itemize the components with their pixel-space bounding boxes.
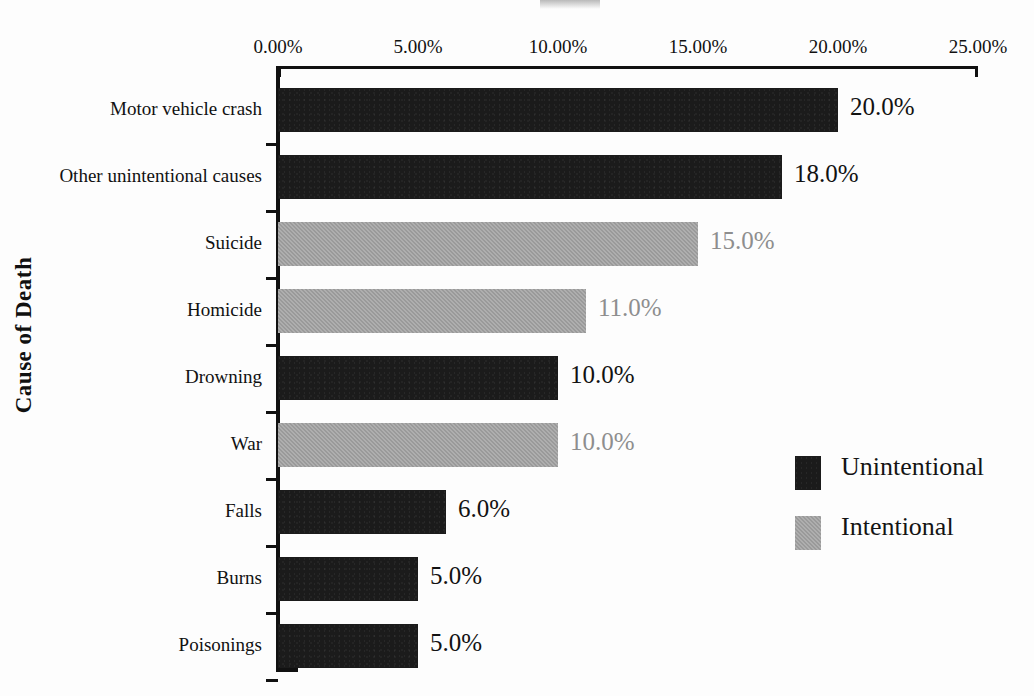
cropped-title-artifact [540, 0, 600, 9]
x-tick-label: 5.00% [393, 36, 442, 58]
bar [278, 155, 782, 199]
x-axis-end-cap [975, 66, 978, 77]
category-label: War [0, 433, 276, 455]
value-label: 10.0% [570, 428, 635, 456]
value-label: 5.0% [430, 562, 482, 590]
bar [278, 557, 418, 601]
legend-swatch [795, 456, 821, 490]
bar-chart: Cause of Death 0.00%5.00%10.00%15.00%20.… [0, 0, 1034, 696]
bar [278, 222, 698, 266]
x-tick-label: 10.00% [529, 36, 588, 58]
x-tick-label: 0.00% [253, 36, 302, 58]
x-tick-label: 25.00% [949, 36, 1008, 58]
category-label: Other unintentional causes [0, 165, 276, 187]
y-tick-mark [266, 478, 278, 481]
value-label: 15.0% [710, 227, 775, 255]
bar [278, 88, 838, 132]
value-label: 20.0% [850, 93, 915, 121]
y-tick-mark [266, 545, 278, 548]
category-label: Motor vehicle crash [0, 98, 276, 120]
y-axis-title: Cause of Death [9, 225, 39, 445]
category-label: Homicide [0, 299, 276, 321]
y-tick-mark [266, 612, 278, 615]
bar [278, 356, 558, 400]
category-label: Falls [0, 500, 276, 522]
bar [278, 289, 586, 333]
value-label: 11.0% [598, 294, 662, 322]
bar [278, 490, 446, 534]
x-tick-label: 20.00% [809, 36, 868, 58]
y-tick-mark [266, 411, 278, 414]
y-tick-mark [266, 210, 278, 213]
value-label: 10.0% [570, 361, 635, 389]
x-axis-line [278, 66, 978, 69]
category-label: Poisonings [0, 634, 276, 656]
value-label: 18.0% [794, 160, 859, 188]
x-tick-label: 15.00% [669, 36, 728, 58]
legend-swatch [795, 516, 821, 550]
y-tick-mark [266, 143, 278, 146]
legend-label: Unintentional [841, 452, 984, 482]
y-axis-foot [276, 668, 298, 672]
category-label: Suicide [0, 232, 276, 254]
bar [278, 423, 558, 467]
legend-label: Intentional [841, 512, 954, 542]
value-label: 6.0% [458, 495, 510, 523]
category-label: Drowning [0, 366, 276, 388]
x-axis-tick-labels: 0.00%5.00%10.00%15.00%20.00%25.00% [0, 36, 1034, 60]
category-label: Burns [0, 567, 276, 589]
bar [278, 624, 418, 668]
y-tick-mark [266, 679, 278, 682]
value-label: 5.0% [430, 629, 482, 657]
y-tick-mark [266, 277, 278, 280]
y-tick-mark [266, 344, 278, 347]
y-axis-title-text: Cause of Death [11, 257, 37, 414]
